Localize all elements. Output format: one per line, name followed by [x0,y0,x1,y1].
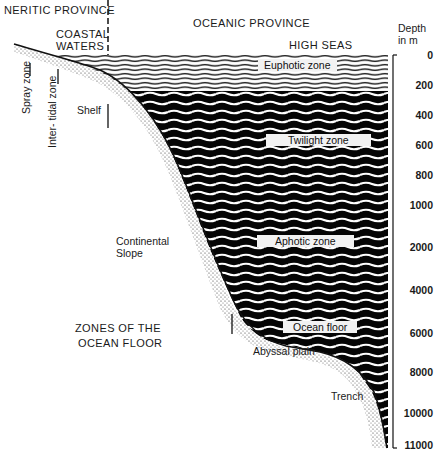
continental-slope-label-line1: Continental [116,235,169,247]
spray-zone-label: Spray zone [20,61,32,114]
depth-tick: 4000 [385,284,433,296]
depth-axis-title-line1: Depth [398,22,426,34]
ocean-floor-label: Ocean floor [283,321,357,333]
depth-tick: 400 [385,109,433,121]
euphotic-zone-label: Euphotic zone [258,59,337,71]
shelf-label: Shelf [77,104,101,116]
depth-tick: 600 [385,139,433,151]
depth-tick: 1000 [385,199,433,211]
high-seas-label: HIGH SEAS [289,39,353,51]
depth-tick: 0 [385,49,433,61]
abyssal-plain-label: Abyssal plain [253,345,315,357]
oceanic-province-label: OCEANIC PROVINCE [193,17,310,29]
trench-label: Trench [331,390,363,402]
neritic-province-label: NERITIC PROVINCE [4,4,115,16]
intertidal-zone-label: Inter- tidal zone [46,76,58,148]
ocean-cross-section [0,0,442,454]
depth-tick: 11000 [385,439,433,451]
zones-title-line2: OCEAN FLOOR [78,337,162,349]
coastal-waters-label-line1: COASTAL [56,28,109,40]
depth-tick: 8000 [385,366,433,378]
zones-title-line1: ZONES OF THE [75,322,161,334]
coastal-waters-label-line2: WATERS [56,40,104,52]
continental-slope-label-line2: Slope [116,247,143,259]
depth-axis-title-line2: in m [398,34,418,46]
depth-tick: 200 [385,79,433,91]
depth-tick: 2000 [385,241,433,253]
aphotic-zone-label: Aphotic zone [257,235,354,247]
twilight-zone-label: Twilight zone [266,134,371,146]
depth-tick: 6000 [385,327,433,339]
depth-tick: 800 [385,169,433,181]
depth-tick: 10000 [385,407,433,419]
